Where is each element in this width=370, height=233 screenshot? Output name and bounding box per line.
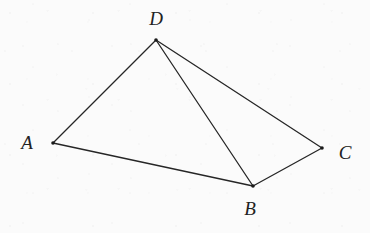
vertex-label-B: B [244, 199, 256, 218]
edge-DA [53, 40, 156, 143]
diagonal-DB [156, 40, 253, 186]
vertex-dot-C [320, 146, 324, 150]
edge-BC [253, 148, 322, 186]
vertex-dot-B [251, 184, 255, 188]
vertex-label-A: A [21, 133, 33, 152]
vertex-dot-A [51, 141, 55, 145]
vertex-label-C: C [339, 143, 352, 162]
vertex-dot-D [154, 38, 158, 42]
edge-group [53, 40, 322, 186]
edge-CD [156, 40, 322, 148]
geometry-figure-canvas: D A B C [0, 0, 370, 233]
quadrilateral-diagram [0, 0, 370, 233]
edge-AB [53, 143, 253, 186]
vertex-label-D: D [149, 9, 163, 28]
